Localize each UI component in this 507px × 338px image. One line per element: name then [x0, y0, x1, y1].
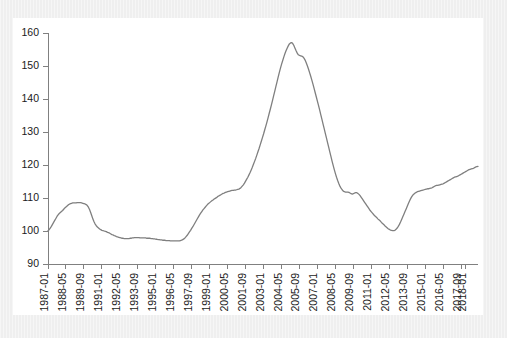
y-tick-label: 100: [21, 224, 39, 236]
y-tick-label: 110: [22, 191, 39, 203]
chart-panel: 90100110120130140150160 1987-011988-0519…: [13, 18, 483, 315]
x-tick-label: 1993-09: [128, 273, 140, 312]
x-tick-label: 2018-01: [456, 273, 468, 312]
y-tick-label: 160: [21, 26, 39, 38]
x-tick-label: 1992-05: [110, 273, 122, 312]
x-tick-label: 2005-09: [289, 273, 301, 312]
x-axis: 1987-011988-051989-091991-011992-051993-…: [38, 264, 478, 312]
x-tick-label: 2013-09: [397, 273, 409, 312]
y-tick-label: 90: [27, 257, 39, 269]
x-tick-label: 2000-05: [218, 273, 230, 312]
line-chart: 90100110120130140150160 1987-011988-0519…: [13, 18, 483, 315]
x-tick-label: 2012-05: [379, 273, 391, 312]
x-tick-label: 2016-05: [433, 273, 445, 312]
x-tick-label: 1989-09: [74, 273, 86, 312]
y-tick-label: 140: [21, 92, 39, 104]
y-axis: 90100110120130140150160: [21, 26, 48, 269]
x-tick-label: 2003-01: [254, 273, 266, 312]
x-tick-label: 2011-01: [361, 273, 373, 311]
y-tick-label: 120: [21, 158, 39, 170]
series-line-index: [48, 43, 478, 241]
y-tick-label: 150: [21, 59, 39, 71]
figure-root: 90100110120130140150160 1987-011988-0519…: [0, 0, 507, 338]
x-tick-label: 1996-05: [164, 273, 176, 312]
x-tick-label: 2015-01: [415, 273, 427, 312]
x-tick-label: 1999-01: [200, 273, 212, 312]
x-tick-label: 1991-01: [92, 273, 104, 312]
x-tick-label: 2001-09: [236, 273, 248, 312]
x-tick-label: 1988-05: [56, 273, 68, 312]
x-tick-label: 2007-01: [307, 273, 319, 312]
y-tick-label: 130: [21, 125, 39, 137]
x-tick-label: 2008-05: [325, 273, 337, 312]
x-tick-label: 2004-05: [272, 273, 284, 312]
x-tick-label: 1987-01: [38, 273, 50, 312]
data-series: [48, 43, 478, 241]
x-tick-label: 2009-09: [343, 273, 355, 312]
x-tick-label: 1995-01: [146, 273, 158, 312]
x-tick-label: 1997-09: [182, 273, 194, 312]
